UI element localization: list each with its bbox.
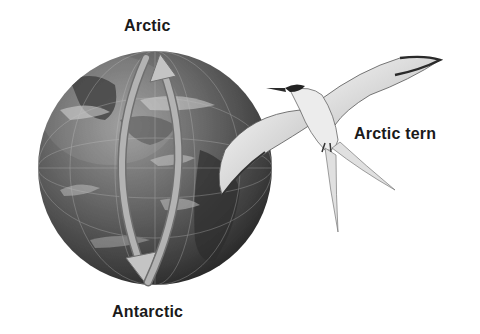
label-arctic: Arctic bbox=[124, 17, 171, 35]
label-arctic-tern: Arctic tern bbox=[354, 125, 436, 143]
label-antarctic: Antarctic bbox=[112, 303, 183, 321]
migration-illustration bbox=[0, 0, 480, 334]
